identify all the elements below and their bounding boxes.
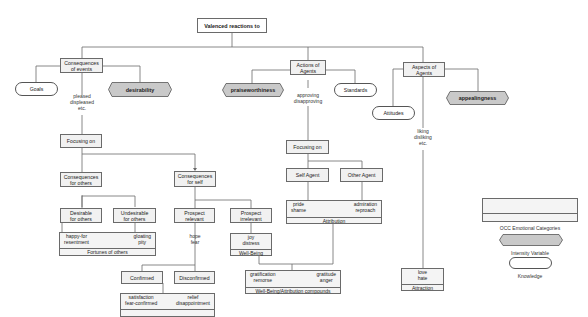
category-name: Fortunes of others bbox=[60, 249, 155, 256]
knowledge-label: Goals bbox=[30, 86, 44, 92]
label-line2: for others bbox=[70, 216, 92, 222]
category-attraction: love hate Attraction bbox=[401, 268, 444, 291]
intensity-desirability: desirability bbox=[108, 82, 172, 97]
category-name: Well-Being bbox=[231, 250, 271, 257]
category-name: Well-Being/Attribution compounds bbox=[246, 288, 340, 295]
emotions-right: gratitudeanger bbox=[317, 272, 336, 287]
emotion: disappointment bbox=[176, 301, 210, 307]
label-line2: relevant bbox=[185, 216, 203, 222]
legend-intensity-swatch bbox=[499, 234, 563, 246]
legend-category-swatch bbox=[482, 198, 578, 222]
legend-intensity-label: Intensity Variable bbox=[480, 250, 580, 256]
event-reactions-words: pleased displeased etc. bbox=[68, 94, 96, 111]
hope-fear-words: hope fear bbox=[185, 234, 205, 246]
knowledge-label: Attitudes bbox=[383, 110, 403, 116]
category-name: Attraction bbox=[402, 285, 443, 292]
root-node-valenced-reactions: Valenced reactions to bbox=[197, 18, 267, 33]
legend-knowledge-swatch bbox=[509, 257, 552, 269]
node-consequences-of-events: Consequences of events bbox=[60, 58, 103, 73]
emotion: shame bbox=[291, 208, 306, 214]
agent-reactions-words: approving disapproving bbox=[290, 93, 326, 105]
category-emotions: prideshame admirationreproach bbox=[287, 201, 381, 218]
category-emotions: satisfactionfear-confirmed reliefdisappo… bbox=[121, 294, 214, 310]
category-fortunes-of-others: happy-forresentment gloatingpity Fortune… bbox=[59, 232, 156, 256]
category-attribution: prideshame admirationreproach Attributio… bbox=[286, 200, 382, 224]
node-focusing-on-events: Focusing on bbox=[60, 134, 102, 148]
legend-knowledge-label: Knowledge bbox=[480, 273, 580, 279]
node-actions-of-agents: Actions of Agents bbox=[290, 60, 326, 75]
emotion: reproach bbox=[354, 208, 377, 214]
legend: OCC Emotional Categories Intensity Varia… bbox=[480, 195, 580, 295]
category-well-being: joy distress Well-Being bbox=[230, 233, 272, 256]
emotions-left: gratificationremorse bbox=[250, 272, 276, 287]
node-focusing-on-agents: Focusing on bbox=[286, 140, 329, 154]
knowledge-label: Standards bbox=[344, 87, 368, 93]
label-line2: Agents bbox=[416, 70, 432, 76]
label-line2: for self bbox=[187, 179, 203, 185]
divider bbox=[483, 213, 577, 214]
node-prospect-irrelevant: Prospect irrelevant bbox=[230, 208, 272, 223]
intensity-label: praiseworthiness bbox=[231, 87, 275, 93]
knowledge-attitudes: Attitudes bbox=[372, 106, 415, 120]
intensity-label: appealingness bbox=[459, 95, 496, 101]
node-disconfirmed: Disconfirmed bbox=[174, 271, 215, 284]
word: etc. bbox=[410, 141, 436, 147]
emotion: anger bbox=[317, 278, 336, 284]
knowledge-standards: Standards bbox=[334, 83, 377, 97]
emotion: remorse bbox=[250, 278, 276, 284]
focus-label: Focusing on bbox=[67, 138, 95, 144]
emotion: resentment bbox=[64, 240, 89, 246]
word: fear bbox=[185, 240, 205, 246]
knowledge-goals: Goals bbox=[15, 82, 58, 96]
emotions-right: admirationreproach bbox=[354, 202, 377, 217]
node-consequences-for-self: Consequences for self bbox=[174, 171, 216, 187]
node-desirable-for-others: Desirable for others bbox=[60, 208, 102, 223]
label: Disconfirmed bbox=[179, 275, 209, 281]
label-line2: for others bbox=[124, 216, 146, 222]
emotions-right: gloatingpity bbox=[133, 234, 151, 248]
node-undesirable-for-others: Undesirable for others bbox=[113, 208, 156, 223]
category-emotions: love hate bbox=[402, 269, 443, 285]
emotion: fear-confirmed bbox=[125, 301, 157, 307]
focus-label: Focusing on bbox=[293, 144, 321, 150]
word: disapproving bbox=[290, 99, 326, 105]
label-line2: irrelevant bbox=[240, 216, 261, 222]
category-emotions: happy-forresentment gloatingpity bbox=[60, 233, 155, 249]
category-name: Attribution bbox=[287, 218, 381, 225]
emotion: pity bbox=[133, 240, 151, 246]
legend-category-label: OCC Emotional Categories bbox=[480, 225, 580, 231]
intensity-appealingness: appealingness bbox=[446, 91, 509, 105]
emotion: hate bbox=[406, 276, 439, 282]
node-prospect-relevant: Prospect relevant bbox=[174, 208, 215, 223]
category-prospect-based: satisfactionfear-confirmed reliefdisappo… bbox=[120, 293, 215, 317]
aspect-reactions-words: liking disliking etc. bbox=[410, 129, 436, 146]
label-line2: for others bbox=[70, 180, 92, 186]
emotions-right: reliefdisappointment bbox=[176, 295, 210, 309]
root-label: Valenced reactions to bbox=[204, 23, 259, 29]
category-emotions: joy distress bbox=[231, 234, 271, 250]
node-confirmed: Confirmed bbox=[121, 271, 163, 284]
category-well-being-attribution-compounds: gratificationremorse gratitudeanger Well… bbox=[245, 270, 341, 294]
node-aspects-of-agents: Aspects of Agents bbox=[403, 62, 445, 77]
label-line2: Agents bbox=[300, 68, 316, 74]
emotions-left: prideshame bbox=[291, 202, 306, 217]
intensity-praiseworthiness: praiseworthiness bbox=[222, 83, 284, 97]
node-other-agent: Other Agent bbox=[340, 168, 383, 182]
label: Self Agent bbox=[296, 172, 320, 178]
emotions-left: happy-forresentment bbox=[64, 234, 89, 248]
label-line2: of events bbox=[71, 66, 92, 72]
label: Other Agent bbox=[348, 172, 376, 178]
category-emotions: gratificationremorse gratitudeanger bbox=[246, 271, 340, 288]
emotions-left: satisfactionfear-confirmed bbox=[125, 295, 157, 309]
word: etc. bbox=[68, 106, 96, 112]
emotion: distress bbox=[235, 241, 267, 247]
intensity-label: desirability bbox=[126, 87, 154, 93]
label: Confirmed bbox=[130, 275, 154, 281]
node-self-agent: Self Agent bbox=[286, 168, 329, 182]
node-consequences-for-others: Consequences for others bbox=[60, 172, 102, 187]
hexagon-icon bbox=[499, 234, 563, 246]
